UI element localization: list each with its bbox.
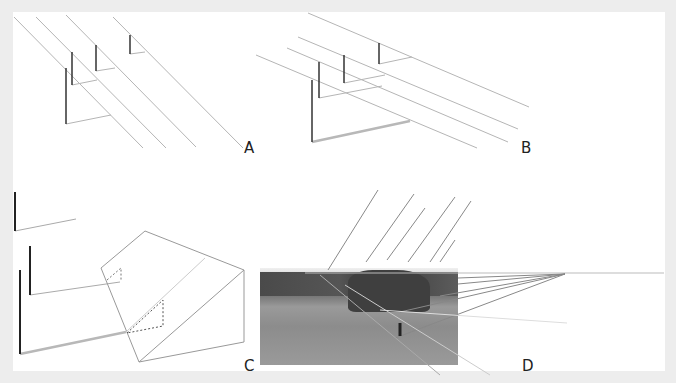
panel-c-posts xyxy=(15,192,30,354)
label-d: D xyxy=(522,357,534,375)
label-c: C xyxy=(244,357,254,375)
panel-c-base xyxy=(20,332,126,354)
panel-b-lines xyxy=(256,13,529,148)
panel-d-lines xyxy=(305,190,664,375)
label-b: B xyxy=(521,139,531,157)
diagram-lines xyxy=(0,0,676,383)
panel-c-lines xyxy=(15,219,244,362)
label-a: A xyxy=(244,139,254,157)
panel-b-base xyxy=(312,121,410,142)
panel-a-lines xyxy=(14,15,243,148)
